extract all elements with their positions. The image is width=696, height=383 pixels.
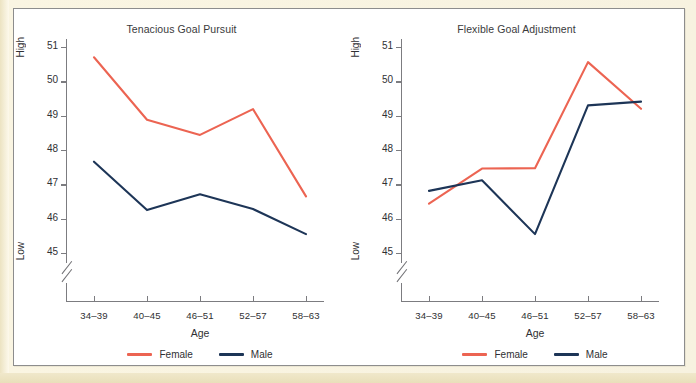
series-line-male [94, 162, 306, 234]
page-edge-left [0, 0, 9, 383]
chart-legend: Female Male [401, 349, 669, 360]
y-axis-tick-label: 45 [367, 246, 393, 257]
x-axis-tick-label: 58–63 [279, 310, 333, 321]
y-axis-tick-label: 50 [367, 74, 393, 85]
legend-label-male: Male [586, 349, 608, 360]
legend-label-female: Female [159, 349, 192, 360]
x-axis-tick-label: 40–45 [120, 310, 174, 321]
x-axis-tick-label: 58–63 [614, 310, 668, 321]
legend-item-male[interactable]: Male [554, 349, 608, 360]
y-axis-tick-label: 49 [32, 109, 58, 120]
y-axis-low-label: Low [15, 242, 26, 260]
x-axis-title: Age [66, 327, 334, 339]
x-axis-tick-label: 34–39 [402, 310, 456, 321]
series-layer [401, 39, 679, 302]
y-axis-tick-label: 46 [367, 212, 393, 223]
y-axis-low-label: Low [350, 242, 361, 260]
legend-item-female[interactable]: Female [462, 349, 527, 360]
x-axis-title: Age [401, 327, 669, 339]
plot-area: 45464748495051HighLow34–3940–4546–5152–5… [66, 39, 334, 302]
x-axis-tick-label: 34–39 [67, 310, 121, 321]
legend-label-male: Male [251, 349, 273, 360]
legend-item-female[interactable]: Female [127, 349, 192, 360]
series-layer [66, 39, 344, 302]
y-axis-tick-label: 48 [32, 143, 58, 154]
figure-page: Tenacious Goal Pursuit 45464748495051Hig… [0, 0, 696, 383]
chart-panel-flexible-goal-adjustment: Flexible Goal Adjustment 45464748495051H… [349, 9, 684, 365]
x-axis-tick-label: 46–51 [173, 310, 227, 321]
chart-title: Tenacious Goal Pursuit [14, 23, 349, 35]
x-axis-tick-label: 52–57 [561, 310, 615, 321]
y-axis-tick-label: 46 [32, 212, 58, 223]
x-axis-tick-label: 46–51 [508, 310, 562, 321]
legend-swatch-male [554, 353, 579, 356]
legend-label-female: Female [494, 349, 527, 360]
legend-swatch-female [127, 353, 152, 355]
chart-panels: Tenacious Goal Pursuit 45464748495051Hig… [14, 9, 684, 365]
y-axis-tick-label: 45 [32, 246, 58, 257]
figure-card: Tenacious Goal Pursuit 45464748495051Hig… [13, 8, 685, 366]
legend-swatch-female [462, 353, 487, 355]
chart-title: Flexible Goal Adjustment [349, 23, 684, 35]
series-line-female [429, 62, 641, 203]
x-axis-tick-label: 52–57 [226, 310, 280, 321]
y-axis-tick-label: 50 [32, 74, 58, 85]
chart-panel-tenacious-goal-pursuit: Tenacious Goal Pursuit 45464748495051Hig… [14, 9, 349, 365]
y-axis-tick-label: 49 [367, 109, 393, 120]
chart-legend: Female Male [66, 349, 334, 360]
y-axis-tick-label: 47 [367, 177, 393, 188]
y-axis-high-label: High [15, 37, 26, 58]
y-axis-tick-label: 51 [32, 40, 58, 51]
series-line-female [94, 57, 306, 196]
legend-swatch-male [219, 353, 244, 356]
legend-item-male[interactable]: Male [219, 349, 273, 360]
plot-area: 45464748495051HighLow34–3940–4546–5152–5… [401, 39, 669, 302]
y-axis-tick-label: 47 [32, 177, 58, 188]
page-edge-bottom [0, 373, 696, 383]
y-axis-tick-label: 48 [367, 143, 393, 154]
y-axis-high-label: High [350, 37, 361, 58]
y-axis-tick-label: 51 [367, 40, 393, 51]
x-axis-tick-label: 40–45 [455, 310, 509, 321]
